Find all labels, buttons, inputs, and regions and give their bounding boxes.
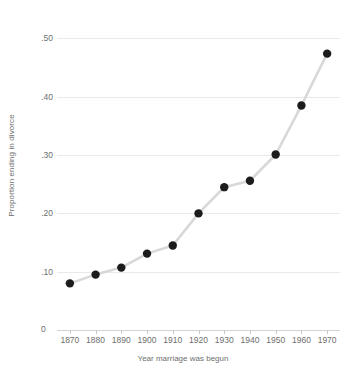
x-axis-tick [199, 330, 200, 334]
data-series-layer: 1870: 0.081880: 0.0951890: 0.1071900: 0.… [57, 21, 340, 330]
x-axis-tick-label: 1920 [189, 336, 208, 345]
x-axis-tick-label: 1950 [266, 336, 285, 345]
x-axis-tick [301, 330, 302, 334]
x-axis-tick-label: 1930 [215, 336, 234, 345]
x-axis-tick [121, 330, 122, 334]
data-point-marker: 1940: 0.256 [246, 177, 254, 185]
x-axis-tick-label: 1890 [112, 336, 131, 345]
data-point-marker: 1970: 0.474 [323, 49, 331, 57]
y-axis-title-text: Proportion ending in divorce [7, 114, 16, 216]
x-axis-tick-label: 1970 [318, 336, 337, 345]
data-point-marker: 1930: 0.245 [220, 183, 228, 191]
data-point-marker: 1900: 0.131 [143, 249, 151, 257]
x-axis-tick-label: 1880 [86, 336, 105, 345]
x-axis-tick-label: 1960 [292, 336, 311, 345]
data-point-marker: 1870: 0.08 [66, 279, 74, 287]
x-axis-tick [96, 330, 97, 334]
x-axis-tick [327, 330, 328, 334]
y-axis-tick-label: .20 [41, 209, 53, 218]
plot-area: .10.20.30.40.50 187018801890190019101920… [57, 21, 340, 330]
data-point-marker: 1920: 0.2 [194, 209, 202, 217]
y-axis-origin-label: 0 [41, 325, 46, 334]
data-point-marker: 1890: 0.107 [117, 263, 125, 271]
y-axis-tick-label: .10 [41, 267, 53, 276]
x-axis-tick [224, 330, 225, 334]
data-point-marker: 1910: 0.145 [169, 241, 177, 249]
data-point-marker: 1950: 0.301 [271, 150, 279, 158]
x-axis-tick [147, 330, 148, 334]
y-axis-tick-label: .40 [41, 93, 53, 102]
series-line [70, 54, 327, 284]
chart-figure: Proportion ending in divorce .10.20.30.4… [0, 0, 350, 375]
y-axis-tick-label: .30 [41, 151, 53, 160]
x-axis-title: Year marriage was begun [22, 354, 344, 363]
x-axis-tick [173, 330, 174, 334]
x-axis-tick-label: 1910 [163, 336, 182, 345]
y-axis-tick-label: .50 [41, 34, 53, 43]
x-axis-tick [70, 330, 71, 334]
x-axis-tick [276, 330, 277, 334]
data-point-marker: 1960: 0.385 [297, 101, 305, 109]
x-axis-tick-label: 1900 [138, 336, 157, 345]
y-axis-title: Proportion ending in divorce [0, 0, 22, 330]
x-axis-tick-label: 1940 [240, 336, 259, 345]
x-axis-tick [250, 330, 251, 334]
x-axis-tick-label: 1870 [60, 336, 79, 345]
data-point-marker: 1880: 0.095 [91, 270, 99, 278]
